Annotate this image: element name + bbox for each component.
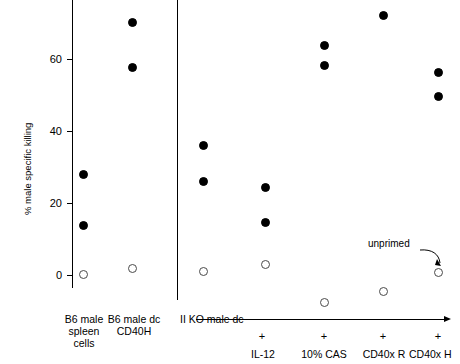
plus-sign-il12: + — [249, 331, 275, 342]
data-point-open — [261, 260, 270, 269]
treatment-axis-arrowhead — [444, 316, 451, 322]
y-tick-label-40: 40 — [40, 126, 62, 137]
data-point-filled — [320, 61, 329, 70]
data-point-filled — [128, 18, 137, 27]
data-point-open — [128, 264, 137, 273]
y-tick-0 — [67, 275, 72, 276]
data-point-filled — [79, 221, 88, 230]
treatment-label-cd40xr: CD40x R — [354, 348, 414, 360]
data-point-filled — [261, 183, 270, 192]
data-point-filled — [434, 68, 443, 77]
data-point-filled — [434, 92, 443, 101]
data-point-open — [379, 287, 388, 296]
y-axis-label: % male specific killing — [22, 123, 33, 215]
data-point-open — [199, 267, 208, 276]
y-tick-label-20: 20 — [40, 198, 62, 209]
treatment-label-cas: 10% CAS — [294, 348, 354, 360]
data-point-filled — [199, 141, 208, 150]
data-point-filled — [128, 63, 137, 72]
plus-sign-cd40xh: + — [425, 331, 451, 342]
y-tick-label-60: 60 — [40, 54, 62, 65]
plus-sign-cas: + — [311, 331, 337, 342]
data-point-open — [320, 298, 329, 307]
treatment-label-cd40xh: CD40x H — [409, 348, 460, 360]
data-point-filled — [320, 41, 329, 50]
data-point-open — [79, 270, 88, 279]
data-point-filled — [379, 11, 388, 20]
category-label-b6-dc-cd40h: B6 male dc CD40H — [99, 313, 169, 337]
panel-divider — [177, 0, 178, 300]
treatment-label-il12: IL-12 — [238, 348, 288, 360]
y-tick-20 — [67, 203, 72, 204]
right-panel-axis-label: II KO male dc — [180, 313, 260, 325]
data-point-filled — [199, 177, 208, 186]
data-point-filled — [79, 170, 88, 179]
scatter-chart: 0 20 40 60 % male specific killing B6 ma… — [0, 0, 460, 364]
y-axis — [72, 0, 73, 288]
data-point-filled — [261, 218, 270, 227]
y-tick-60 — [67, 59, 72, 60]
plus-sign-cd40xr: + — [370, 331, 396, 342]
y-tick-40 — [67, 131, 72, 132]
annotation-arrow-icon — [418, 248, 444, 270]
annotation-unprimed: unprimed — [368, 238, 410, 249]
y-tick-label-0: 0 — [40, 270, 62, 281]
